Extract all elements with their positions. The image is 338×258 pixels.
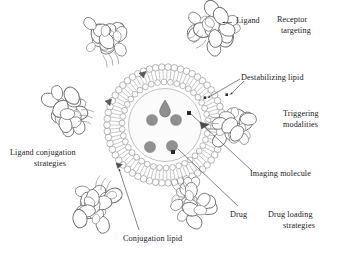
lipid-head-group xyxy=(182,160,188,166)
label-ligand-conjugation-line1: Ligand conjugation xyxy=(10,148,76,158)
antibody-ligand-protein xyxy=(77,6,137,72)
lipid-head-group xyxy=(125,145,131,151)
lipid-head-group xyxy=(107,140,114,147)
lipid-head-group xyxy=(146,66,153,73)
lipid-head-group xyxy=(152,64,159,71)
label-drug-loading-line1: Drug loading xyxy=(268,210,313,220)
lipid-head-group xyxy=(176,163,182,169)
lipid-head-group xyxy=(157,165,163,171)
lipid-head-group xyxy=(174,81,180,87)
lipid-head-group xyxy=(171,64,178,71)
lipid-head-group xyxy=(132,91,138,97)
lipid-head-group xyxy=(105,109,112,116)
lipid-head-group xyxy=(161,79,167,85)
label-destabilizing-lipid: Destabilizing lipid xyxy=(241,73,304,83)
lipid-head-group xyxy=(144,161,150,167)
lipid-head-group xyxy=(146,178,153,185)
antibody-ligand-protein xyxy=(33,78,99,144)
label-drug-loading-line2: strategies xyxy=(283,221,315,231)
lipid-head-group xyxy=(159,180,166,187)
lipid-head-group xyxy=(199,100,205,106)
lipid-head-group xyxy=(204,131,210,137)
lipid-head-group xyxy=(105,134,112,141)
lipid-head-group xyxy=(104,128,111,135)
lipid-head-group xyxy=(122,139,128,145)
lipid-head-group xyxy=(217,103,224,110)
antibody-ligand-protein xyxy=(175,0,251,67)
label-receptor-targeting-line1: Receptor xyxy=(277,15,307,25)
lipid-head-group xyxy=(137,87,143,93)
liposome-drug-delivery-figure: Ligand Receptor targeting Destabilizing … xyxy=(0,0,338,258)
label-triggering-line2: modalities xyxy=(283,120,318,130)
lipid-head-group xyxy=(187,157,193,163)
lipid-head-group xyxy=(202,105,208,111)
lipid-head-group xyxy=(152,179,159,186)
lipid-head-group xyxy=(129,150,135,156)
lipid-head-group xyxy=(148,81,154,87)
lipid-head-group xyxy=(165,64,172,71)
lipid-head-group xyxy=(200,143,206,149)
lipid-head-group xyxy=(155,80,161,86)
label-ligand: Ligand xyxy=(236,16,260,26)
lipid-head-group xyxy=(134,154,140,160)
label-drug: Drug xyxy=(230,210,247,220)
drug-molecule xyxy=(146,114,157,125)
lipid-head-group xyxy=(170,164,176,170)
label-ligand-conjugation-line2: strategies xyxy=(34,159,66,169)
lipid-head-group xyxy=(128,96,134,102)
lipid-head-group xyxy=(167,79,173,85)
drug-molecule xyxy=(144,141,155,152)
lipid-head-group xyxy=(139,158,145,164)
label-imaging-molecule: Imaging molecule xyxy=(250,169,311,179)
lipid-head-group xyxy=(165,180,172,187)
imaging-molecule-marker xyxy=(187,111,191,115)
label-receptor-targeting-line2: targeting xyxy=(281,26,311,36)
lipid-head-group xyxy=(120,114,126,120)
lipid-head-group xyxy=(119,120,125,126)
lipid-head-group xyxy=(185,86,191,92)
lipid-head-group xyxy=(142,84,148,90)
lipid-head-group xyxy=(159,64,166,71)
lipid-head-group xyxy=(163,165,169,171)
lipid-head-group xyxy=(180,83,186,89)
lipid-head-group xyxy=(104,115,111,122)
destabilizing-lipid-marker xyxy=(225,93,228,96)
label-triggering-line1: Triggering xyxy=(283,109,319,119)
lipid-head-group xyxy=(119,126,125,132)
label-conjugation-lipid: Conjugation lipid xyxy=(123,234,182,244)
lipid-head-group xyxy=(104,122,111,129)
antibody-ligand-protein xyxy=(59,168,131,243)
lipid-head-group xyxy=(191,90,197,96)
lipid-head-group xyxy=(195,94,201,100)
lipid-head-group xyxy=(122,107,128,113)
lipid-head-group xyxy=(196,148,202,154)
destabilizing-lipid-marker xyxy=(204,96,207,99)
lipid-head-group xyxy=(192,153,198,159)
liposome-aqueous-core xyxy=(129,89,202,162)
imaging-molecule-marker xyxy=(171,150,175,154)
drug-molecule xyxy=(170,114,181,125)
lipid-head-group xyxy=(120,133,126,139)
lipid-head-group xyxy=(177,66,184,73)
lipid-head-group xyxy=(203,137,209,143)
lipid-head-group xyxy=(150,163,156,169)
drug-molecule xyxy=(166,140,177,151)
lipid-head-group xyxy=(204,111,210,117)
lipid-head-group xyxy=(124,102,130,108)
